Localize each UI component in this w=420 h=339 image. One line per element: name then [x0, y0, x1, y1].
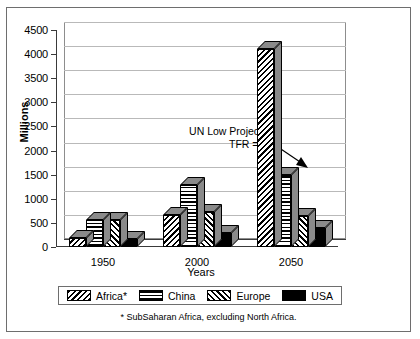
legend-label: China: [168, 290, 195, 302]
bar-africa-1950: [69, 238, 86, 247]
legend-item-china[interactable]: China: [139, 290, 195, 302]
legend-label: Europe: [236, 290, 270, 302]
y-tick-3000: [51, 102, 56, 103]
legend: Africa*ChinaEuropeUSA: [58, 286, 342, 305]
x-axis-title: Years: [56, 266, 346, 278]
legend-swatch-icon: [67, 290, 91, 301]
bar-front-face: [69, 238, 86, 247]
legend-label: USA: [311, 290, 333, 302]
y-tick-label-4000: 4000: [24, 48, 48, 60]
y-tick-2500: [51, 126, 56, 127]
y-tick-1500: [51, 175, 56, 176]
y-tick-4500: [51, 30, 56, 31]
y-tick-label-4500: 4500: [24, 24, 48, 36]
y-tick-label-2500: 2500: [24, 120, 48, 132]
y-tick-0: [51, 247, 56, 248]
legend-label: Africa*: [96, 290, 127, 302]
y-tick-label-1500: 1500: [24, 169, 48, 181]
legend-swatch-icon: [282, 290, 306, 301]
legend-item-europe[interactable]: Europe: [207, 290, 270, 302]
y-tick-label-1000: 1000: [24, 193, 48, 205]
y-tick-3500: [51, 78, 56, 79]
y-tick-2000: [51, 151, 56, 152]
bar-africa-2000: [163, 215, 180, 247]
bar-side-face: [274, 41, 282, 247]
y-tick-label-3500: 3500: [24, 72, 48, 84]
chart-screenshot: Millions 0500100015002000250030003500400…: [0, 0, 420, 339]
bar-front-face: [163, 215, 180, 247]
y-tick-label-0: 0: [42, 241, 48, 253]
y-tick-500: [51, 223, 56, 224]
bar-side-face: [197, 177, 205, 247]
bar-africa-2050: [257, 49, 274, 247]
bar-side-face: [291, 167, 299, 247]
legend-item-africa[interactable]: Africa*: [67, 290, 127, 302]
y-tick-label-3000: 3000: [24, 96, 48, 108]
y-axis-tick-labels: 050010001500200025003000350040004500: [0, 0, 56, 247]
legend-swatch-icon: [207, 290, 231, 301]
legend-swatch-icon: [139, 290, 163, 301]
y-tick-label-500: 500: [30, 217, 48, 229]
y-tick-4000: [51, 54, 56, 55]
legend-item-usa[interactable]: USA: [282, 290, 333, 302]
footnote: * SubSaharan Africa, excluding North Afr…: [6, 312, 411, 322]
bar-front-face: [257, 49, 274, 247]
y-tick-label-2000: 2000: [24, 145, 48, 157]
y-tick-1000: [51, 199, 56, 200]
